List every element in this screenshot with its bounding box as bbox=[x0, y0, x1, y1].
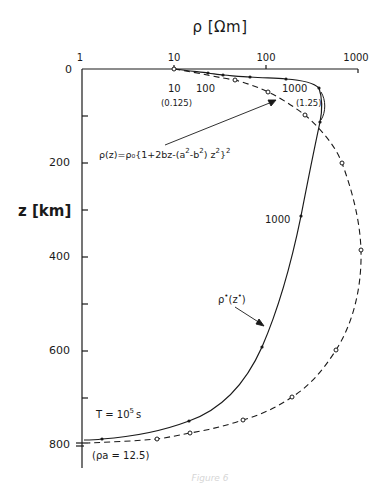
data-point bbox=[248, 75, 251, 78]
y-tick-label-200: 200 bbox=[30, 157, 70, 168]
rho-star-arrow bbox=[235, 307, 260, 323]
figure-caption: Figure 6 bbox=[192, 474, 229, 483]
annotation-0-125: (0.125) bbox=[161, 99, 192, 108]
data-point bbox=[303, 113, 307, 117]
data-point bbox=[221, 73, 224, 76]
y-axis-title: z [km] bbox=[18, 204, 71, 219]
data-point bbox=[100, 437, 103, 440]
data-point bbox=[260, 345, 263, 348]
model-formula: ρ(z)=ρ₀{1+2bz-(a2-b2) z2}2 bbox=[99, 150, 230, 160]
annotation-1000-mid: 1000 bbox=[265, 215, 290, 225]
period-exponent: 5 bbox=[130, 407, 134, 415]
model-curve-dashed bbox=[88, 69, 361, 443]
y-tick-label-400: 400 bbox=[30, 251, 70, 262]
data-point bbox=[266, 90, 270, 94]
period-unit: s bbox=[136, 409, 141, 420]
arrows bbox=[165, 100, 276, 326]
data-point bbox=[206, 71, 209, 74]
rho-star-close: ) bbox=[242, 294, 246, 305]
inverted-curve-solid bbox=[84, 69, 322, 440]
annotation-100: 100 bbox=[196, 84, 215, 94]
apparent-resistivity-label: (ρa = 12.5) bbox=[92, 451, 149, 461]
period-main: T = 10 bbox=[96, 409, 130, 420]
data-point bbox=[318, 120, 321, 123]
formula-part: -b bbox=[190, 149, 199, 160]
formula-part: ) z bbox=[204, 149, 216, 160]
formula-part: ρ(z)=ρ₀{1+2bz-(a bbox=[99, 149, 185, 160]
data-point bbox=[290, 395, 294, 399]
data-point bbox=[359, 248, 363, 252]
rho-star-arrowhead-icon bbox=[256, 319, 264, 326]
model-points bbox=[155, 67, 363, 441]
data-point bbox=[317, 86, 320, 89]
data-point bbox=[155, 437, 159, 441]
x-axis-title: ρ [Ωm] bbox=[192, 20, 247, 35]
data-point bbox=[334, 348, 338, 352]
y-tick-label-0: 0 bbox=[32, 64, 72, 75]
data-point bbox=[241, 418, 245, 422]
x-tick-label-100: 100 bbox=[256, 53, 275, 63]
y-tick-label-600: 600 bbox=[30, 345, 70, 356]
data-point bbox=[284, 77, 287, 80]
annotation-1-25: (1.25) bbox=[296, 99, 322, 108]
annotation-1000-top: 1000 bbox=[282, 84, 307, 94]
annotation-10: 10 bbox=[168, 84, 181, 94]
y-tick-label-800: 800 bbox=[30, 439, 70, 450]
data-point bbox=[299, 214, 302, 217]
data-point bbox=[172, 67, 176, 71]
formula-arrowhead-icon bbox=[268, 100, 276, 106]
rho-star-arg: (z bbox=[229, 294, 238, 305]
data-point bbox=[188, 431, 192, 435]
data-point bbox=[233, 78, 237, 82]
x-tick-label-1: 1 bbox=[77, 53, 83, 63]
x-tick-label-1000: 1000 bbox=[343, 53, 368, 63]
data-point bbox=[340, 161, 344, 165]
formula-arrow bbox=[165, 102, 272, 145]
period-label: T = 105s bbox=[96, 410, 141, 420]
x-tick-label-10: 10 bbox=[168, 53, 181, 63]
data-point bbox=[187, 419, 190, 422]
formula-exp: 2 bbox=[226, 147, 230, 155]
rho-star-label: ρ•(z•) bbox=[218, 295, 246, 305]
